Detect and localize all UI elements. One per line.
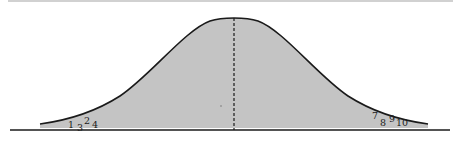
bell-curve-diagram: 1 3 2 4 7 8 9 10 <box>0 0 461 144</box>
left-tail-label-2: 2 <box>84 115 90 126</box>
right-tail-label-10: 10 <box>396 117 408 128</box>
right-tail-label-8: 8 <box>380 117 386 128</box>
top-edge-rule <box>8 0 453 2</box>
right-tail-label-9: 9 <box>389 113 395 124</box>
left-tail-label-1: 1 <box>68 119 74 130</box>
left-tail-label-4: 4 <box>92 119 98 130</box>
scan-speck <box>220 105 222 107</box>
right-tail-label-7: 7 <box>372 110 378 121</box>
left-tail-label-3: 3 <box>77 122 83 133</box>
